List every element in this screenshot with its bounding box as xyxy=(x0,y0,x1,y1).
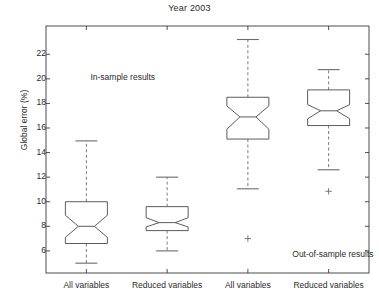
boxplot-3 xyxy=(227,40,269,242)
y-tick-label: 20 xyxy=(24,74,46,83)
box-body xyxy=(308,90,350,126)
annotation-text: In-sample results xyxy=(90,72,155,82)
y-tick-label: 10 xyxy=(24,197,46,206)
y-tick-label: 8 xyxy=(24,221,46,230)
box-body xyxy=(146,207,188,231)
y-tick-label: 18 xyxy=(24,98,46,107)
annotation-text: Out-of-sample results xyxy=(292,249,373,259)
boxplot-2 xyxy=(146,177,188,251)
x-tick-label: All variables xyxy=(202,280,294,290)
x-tick-label: All variables xyxy=(40,280,132,290)
boxplot-4 xyxy=(308,70,350,195)
box-body xyxy=(227,97,269,139)
y-tick-label: 12 xyxy=(24,172,46,181)
y-axis-tick-labels: 6810121416182022 xyxy=(10,0,46,302)
y-tick-label: 6 xyxy=(24,246,46,255)
boxplot-1 xyxy=(65,141,107,263)
x-tick-label: Reduced variables xyxy=(283,280,375,290)
box-body xyxy=(65,202,107,244)
y-tick-label: 16 xyxy=(24,123,46,132)
y-tick-label: 14 xyxy=(24,148,46,157)
chart-title: Year 2003 xyxy=(0,3,379,13)
y-tick-label: 22 xyxy=(24,49,46,58)
boxplot-figure: Year 2003 Global error (%) 6810121416182… xyxy=(0,0,379,302)
x-tick-label: Reduced variables xyxy=(121,280,213,290)
